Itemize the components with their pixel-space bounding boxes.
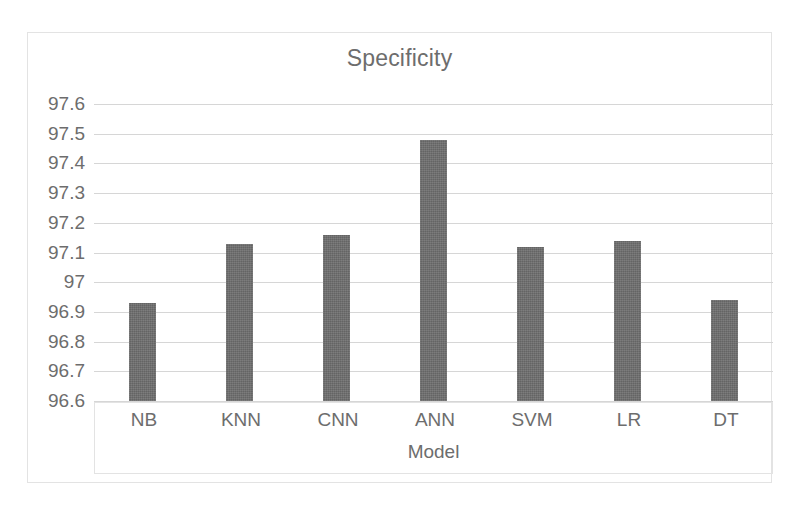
bar-knn[interactable]	[226, 244, 253, 401]
plot-area: 97.697.597.497.397.297.19796.996.896.796…	[94, 104, 773, 401]
bar-lr[interactable]	[614, 241, 641, 401]
y-axis-tick-label: 97	[64, 271, 85, 293]
y-axis-tick-label: 97.2	[48, 212, 85, 234]
bars-layer	[94, 104, 773, 401]
y-axis-tick-label: 97.6	[48, 93, 85, 115]
y-axis-tick-label: 97.5	[48, 123, 85, 145]
bar-dt[interactable]	[711, 300, 738, 401]
x-axis-tick-label-cnn: CNN	[317, 409, 358, 431]
x-axis-tick-label-dt: DT	[713, 409, 738, 431]
bar-svm[interactable]	[517, 247, 544, 401]
x-axis-tick-label-svm: SVM	[511, 409, 552, 431]
y-axis-tick-label: 97.3	[48, 182, 85, 204]
x-axis-category-row: NBKNNCNNANNSVMLRDT	[95, 403, 772, 439]
y-axis-tick-label: 96.8	[48, 331, 85, 353]
bar-cnn[interactable]	[323, 235, 350, 401]
x-axis-tick-label-knn: KNN	[221, 409, 261, 431]
x-axis-tick-label-lr: LR	[617, 409, 641, 431]
chart-frame: Specificity 97.697.597.497.397.297.19796…	[27, 32, 772, 483]
x-axis-tick-label-ann: ANN	[415, 409, 455, 431]
y-axis-tick-label: 96.9	[48, 301, 85, 323]
y-axis-tick-label: 96.6	[48, 390, 85, 412]
x-axis-tick-label-nb: NB	[131, 409, 157, 431]
bar-ann[interactable]	[420, 140, 447, 401]
y-axis-tick-label: 97.1	[48, 242, 85, 264]
x-axis-title: Model	[95, 441, 772, 463]
chart-title: Specificity	[28, 45, 771, 72]
x-axis-category-box: NBKNNCNNANNSVMLRDT Model	[94, 402, 773, 474]
y-axis-tick-label: 97.4	[48, 152, 85, 174]
bar-nb[interactable]	[129, 303, 156, 401]
y-axis-tick-label: 96.7	[48, 360, 85, 382]
